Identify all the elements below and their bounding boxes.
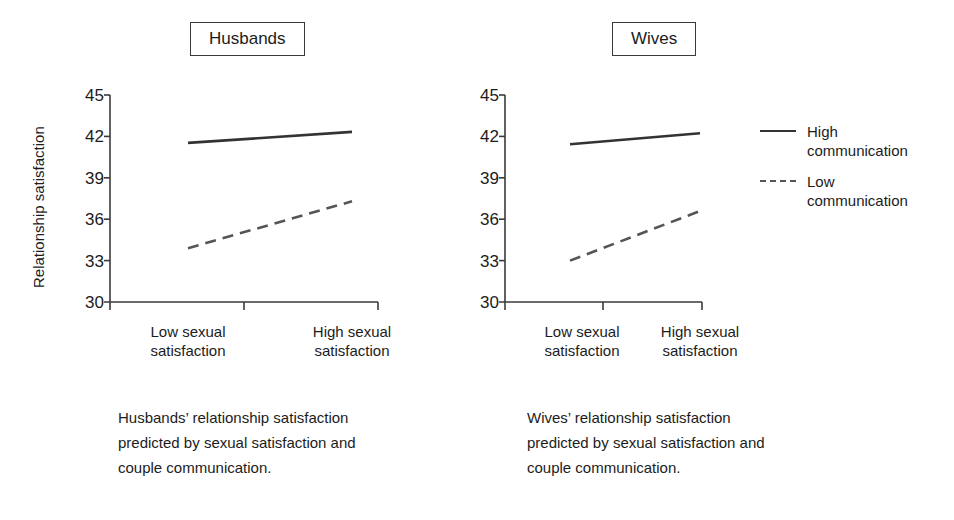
legend: High communication Low communication — [758, 122, 954, 222]
x-category-label-high-sexual-satisfaction: High sexual satisfaction — [640, 322, 760, 360]
y-tick-label: 42 — [85, 127, 104, 146]
series-line-high-communication — [188, 132, 352, 143]
y-tick-label: 36 — [480, 210, 499, 229]
series-line-low-communication — [188, 201, 352, 248]
y-tick-label: 45 — [85, 86, 104, 105]
chart-plot-husbands: 45 42 39 36 33 30 — [60, 80, 380, 320]
caption-wives: Wives’ relationship satisfaction predict… — [527, 405, 917, 480]
chart-plot-wives: 45 42 39 36 33 30 — [455, 80, 775, 320]
panel-title-wives: Wives — [612, 22, 696, 56]
legend-item-high-communication: High communication — [758, 122, 954, 160]
caption-husbands: Husbands’ relationship satisfaction pred… — [118, 405, 508, 480]
y-tick-label: 42 — [480, 127, 499, 146]
y-tick-label: 39 — [480, 169, 499, 188]
x-category-label-low-sexual-satisfaction: Low sexual satisfaction — [522, 322, 642, 360]
y-tick-label: 33 — [85, 252, 104, 271]
dashed-line-swatch-icon — [758, 172, 798, 189]
legend-item-label: High communication — [807, 122, 908, 160]
x-category-label-low-sexual-satisfaction: Low sexual satisfaction — [128, 322, 248, 360]
y-tick-label: 45 — [480, 86, 499, 105]
y-tick-label: 30 — [480, 293, 499, 312]
solid-line-swatch-icon — [758, 122, 798, 139]
y-tick-label: 36 — [85, 210, 104, 229]
interaction-plot-figure: Husbands Relationship satisfaction 45 42… — [0, 0, 954, 520]
legend-item-low-communication: Low communication — [758, 172, 954, 210]
x-category-label-high-sexual-satisfaction: High sexual satisfaction — [292, 322, 412, 360]
series-line-high-communication — [570, 133, 700, 144]
series-line-low-communication — [570, 211, 700, 261]
y-tick-label: 39 — [85, 169, 104, 188]
y-tick-label: 30 — [85, 293, 104, 312]
y-tick-label: 33 — [480, 252, 499, 271]
y-axis-title-husbands: Relationship satisfaction — [30, 126, 47, 288]
panel-title-husbands: Husbands — [190, 22, 305, 56]
legend-item-label: Low communication — [807, 172, 908, 210]
